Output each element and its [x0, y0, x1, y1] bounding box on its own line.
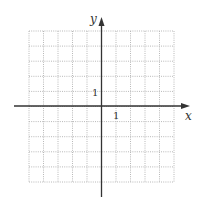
- y-axis-arrow-icon: [99, 17, 105, 26]
- y-unit-tick-label: 1: [92, 87, 98, 98]
- coordinate-plane: x y 1 1: [0, 0, 204, 208]
- y-axis-label: y: [89, 12, 97, 26]
- x-unit-tick-label: 1: [113, 110, 119, 121]
- x-axis-label: x: [185, 109, 192, 123]
